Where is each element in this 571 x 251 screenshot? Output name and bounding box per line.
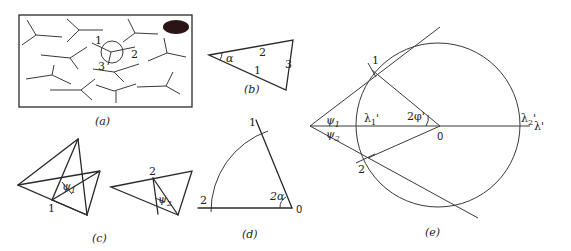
- arm-label-2: 2: [131, 48, 138, 61]
- psi2-label: ψ2: [158, 193, 172, 208]
- angle-2alpha-label: 2α: [269, 190, 285, 203]
- point-label-2: 2: [358, 163, 365, 176]
- arm-label-1: 1: [95, 34, 102, 47]
- caption-e: (e): [425, 226, 440, 239]
- angle-2phi-label: 2φ': [407, 110, 425, 123]
- psi1-label: ψ1: [326, 114, 340, 129]
- point-label-1: 1: [249, 116, 256, 129]
- arc-d: [211, 131, 268, 212]
- lambda1-label: λ1': [364, 112, 379, 127]
- point-label-0: 0: [296, 204, 302, 215]
- point-label-0: 0: [437, 131, 443, 142]
- panel-a: 1 2 3 (a): [19, 15, 192, 128]
- side-label-1: 1: [254, 64, 261, 77]
- panel-c: ψ1 1 ψ2 2 (c): [18, 139, 192, 245]
- alpha-arc: [220, 53, 222, 60]
- figure-canvas: 1 2 3 (a) α 2 1 3 (b) ψ1 1 ψ2 2 (c): [0, 0, 571, 251]
- vertex-label-2: 2: [149, 165, 156, 178]
- vertex-label-1: 1: [48, 202, 55, 215]
- radius-to-2: [368, 126, 440, 158]
- point-label-2: 2: [200, 194, 207, 207]
- radius-to-1: [372, 70, 440, 126]
- caption-a: (a): [95, 115, 110, 128]
- side-label-3: 3: [285, 58, 292, 71]
- side-label-2: 2: [259, 46, 266, 59]
- panel-b: α 2 1 3 (b): [209, 40, 293, 96]
- caption-c: (c): [92, 232, 107, 245]
- point-label-1: 1: [372, 54, 379, 67]
- caption-d: (d): [242, 228, 258, 241]
- panel-d: 2α 1 2 0 (d): [198, 116, 302, 241]
- triangle-c1-c: [52, 139, 87, 215]
- panel-e: 1 2 0 ψ1 ψ2 2φ' λ1' λ2' λ' (e): [310, 27, 544, 239]
- lambda-axis-label: λ': [534, 120, 544, 133]
- angle-2phi-arc: [426, 115, 428, 126]
- circled-molecule: 1 2 3: [92, 34, 138, 73]
- psi2-label: ψ2: [326, 128, 340, 143]
- caption-b: (b): [244, 83, 260, 96]
- dark-ellipse-blob: [163, 20, 189, 34]
- alpha-label: α: [226, 52, 234, 65]
- psi1-label: ψ1: [62, 180, 76, 195]
- arm-label-3: 3: [98, 60, 105, 73]
